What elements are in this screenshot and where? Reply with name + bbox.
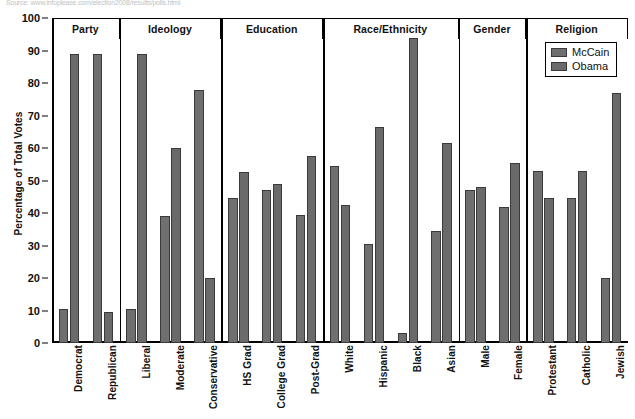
y-tick-mark <box>42 50 48 51</box>
x-tick-label: Conservative <box>208 345 219 409</box>
legend-item-obama[interactable]: Obama <box>551 61 609 72</box>
y-tick-label: 40 <box>28 208 40 219</box>
bar-mccain-liberal <box>126 309 136 343</box>
bar-mccain-catholic <box>567 198 577 343</box>
bar-obama-catholic <box>578 171 588 343</box>
y-tick-mark <box>42 180 48 181</box>
y-tick-mark <box>42 278 48 279</box>
bar-obama-post-grad <box>307 156 317 343</box>
legend-label-obama: Obama <box>572 61 608 72</box>
bar-mccain-hs-grad <box>228 198 238 343</box>
y-tick-mark <box>42 213 48 214</box>
bar-obama-jewish <box>612 93 622 343</box>
x-tick-label: Hispanic <box>378 345 389 387</box>
legend-label-mccain: McCain <box>572 47 609 58</box>
y-tick-label: 80 <box>28 78 40 89</box>
bar-obama-asian <box>442 143 452 343</box>
bar-mccain-hispanic <box>364 244 374 343</box>
bar-mccain-conservative <box>194 90 204 344</box>
bar-mccain-male <box>465 190 475 343</box>
legend-swatch-mccain <box>551 48 567 57</box>
bars-layer <box>52 18 628 343</box>
y-tick-mark <box>42 148 48 149</box>
bar-mccain-female <box>499 207 509 344</box>
x-tick-label: Female <box>513 345 524 380</box>
bar-mccain-republican <box>93 54 103 343</box>
x-tick-label: Protestant <box>547 345 558 395</box>
y-tick-label: 50 <box>28 175 40 186</box>
x-tick-label: Catholic <box>581 345 592 385</box>
bar-obama-liberal <box>137 54 147 343</box>
y-tick-label: 60 <box>28 143 40 154</box>
group-separator <box>459 18 461 343</box>
bar-mccain-protestant <box>533 171 543 343</box>
bar-mccain-democrat <box>59 309 69 343</box>
y-tick-label: 20 <box>28 273 40 284</box>
y-tick-mark <box>42 83 48 84</box>
bar-obama-college-grad <box>273 184 283 343</box>
x-tick-label: Democrat <box>73 345 84 392</box>
y-tick-mark <box>42 343 48 344</box>
x-tick-label: College Grad <box>276 345 287 408</box>
bar-mccain-jewish <box>601 278 611 343</box>
bar-mccain-college-grad <box>262 190 272 343</box>
bar-obama-hs-grad <box>239 172 249 343</box>
y-tick-label: 30 <box>28 240 40 251</box>
bar-mccain-moderate <box>160 216 170 343</box>
group-separator <box>526 18 528 343</box>
bar-obama-republican <box>104 312 114 343</box>
x-tick-label: Jewish <box>615 345 626 379</box>
x-tick-label: White <box>344 345 355 373</box>
bar-mccain-black <box>398 333 408 343</box>
legend-item-mccain[interactable]: McCain <box>551 47 609 58</box>
x-tick-label: HS Grad <box>242 345 253 386</box>
bar-obama-protestant <box>544 198 554 343</box>
x-tick-label: Black <box>412 345 423 372</box>
y-tick-mark <box>42 245 48 246</box>
y-tick-label: 10 <box>28 305 40 316</box>
group-separator <box>120 18 122 343</box>
legend-swatch-obama <box>551 62 567 71</box>
x-tick-label: Liberal <box>141 345 152 379</box>
bar-mccain-asian <box>431 231 441 343</box>
y-tick-label: 100 <box>22 13 40 24</box>
bar-obama-conservative <box>205 278 215 343</box>
y-tick-label: 0 <box>34 338 40 349</box>
group-separator <box>323 18 325 343</box>
bar-obama-moderate <box>171 148 181 343</box>
bar-obama-male <box>476 187 486 343</box>
y-tick-label: 90 <box>28 45 40 56</box>
y-axis-ticks: 0102030405060708090100 <box>14 18 48 343</box>
bar-mccain-white <box>330 166 340 343</box>
x-tick-label: Male <box>480 345 491 368</box>
y-tick-mark <box>42 115 48 116</box>
group-separator <box>221 18 223 343</box>
x-axis-labels: DemocratRepublicanLiberalModerateConserv… <box>52 345 628 419</box>
bar-mccain-post-grad <box>296 215 306 343</box>
x-tick-label: Asian <box>446 345 457 373</box>
bar-obama-democrat <box>70 54 80 343</box>
y-tick-mark <box>42 310 48 311</box>
bar-obama-white <box>341 205 351 343</box>
x-tick-label: Republican <box>107 345 118 400</box>
x-tick-label: Moderate <box>175 345 186 390</box>
y-tick-mark <box>42 18 48 19</box>
legend: McCainObama <box>545 42 617 77</box>
grouped-bar-chart: Percentage of Total Votes 01020304050607… <box>0 0 635 419</box>
bar-obama-hispanic <box>375 127 385 343</box>
bar-obama-black <box>409 38 419 344</box>
x-tick-label: Post-Grad <box>310 345 321 394</box>
y-tick-label: 70 <box>28 110 40 121</box>
bar-obama-female <box>510 163 520 343</box>
